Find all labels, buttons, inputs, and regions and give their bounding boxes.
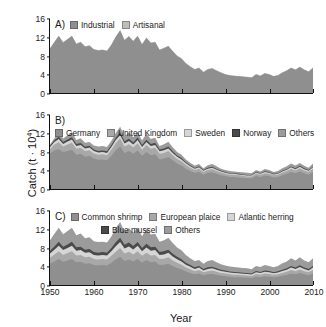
legend-label-artisanal: Artisanal <box>133 20 165 30</box>
panel-label-a: A) <box>55 19 65 32</box>
x-tick-mark <box>226 185 227 189</box>
legend-label-norway: Norway <box>243 128 271 138</box>
legend-swatch-others-c <box>164 226 172 234</box>
y-tick-label: 4 <box>40 167 45 176</box>
y-tick-label: 16 <box>36 111 45 120</box>
y-tick-label: 12 <box>36 34 45 43</box>
legend-item-artisanal[interactable]: Artisanal <box>122 20 165 30</box>
legend-item-atlantic-herring[interactable]: Atlantic herring <box>227 212 293 222</box>
y-tick-label: 4 <box>40 71 45 80</box>
legend-item-common-shrimp[interactable]: Common shrimp <box>71 212 143 222</box>
x-tick-mark <box>182 281 183 285</box>
legend-label-others-c: Others <box>175 225 200 235</box>
legend-swatch-others-b <box>278 129 286 137</box>
legend-item-others-b[interactable]: Others <box>278 128 314 138</box>
legend-swatch-industrial <box>70 21 78 29</box>
x-tick-mark <box>226 281 227 285</box>
legend-item-germany[interactable]: Germany <box>55 128 100 138</box>
y-tick-mark <box>47 248 51 249</box>
y-tick-label: 12 <box>36 226 45 235</box>
x-tick-label: 2000 <box>261 288 280 297</box>
legend-swatch-artisanal <box>122 21 130 29</box>
x-tick-mark <box>270 89 271 93</box>
x-tick-mark <box>94 185 95 189</box>
legend-swatch-norway <box>232 129 240 137</box>
legend-label-blue-mussel: Blue mussel <box>112 225 157 235</box>
y-tick-label: 8 <box>40 52 45 61</box>
legend-label-others-b: Others <box>289 128 314 138</box>
x-tick-label: 2010 <box>305 288 324 297</box>
y-tick-mark <box>47 114 51 115</box>
legend-label-atlantic-herring: Atlantic herring <box>238 212 293 222</box>
panel-label-c: C) <box>55 211 66 224</box>
y-tick-mark <box>47 37 51 38</box>
x-tick-label: 1950 <box>41 288 60 297</box>
legend-label-common-shrimp: Common shrimp <box>82 212 143 222</box>
y-tick-mark <box>47 267 51 268</box>
x-tick-label: 1990 <box>217 288 236 297</box>
y-axis-title-text: Catch (t · 10 <box>26 137 38 198</box>
x-tick-label: 1960 <box>85 288 104 297</box>
x-tick-mark <box>226 89 227 93</box>
panel-c: 04812161950196019701980199020002010 C) C… <box>0 192 326 307</box>
legend-swatch-sweden <box>184 129 192 137</box>
legend-label-industrial: Industrial <box>81 20 115 30</box>
x-tick-mark <box>270 185 271 189</box>
legend-item-norway[interactable]: Norway <box>232 128 271 138</box>
legend-swatch-united-kingdom <box>107 129 115 137</box>
x-tick-mark <box>138 281 139 285</box>
y-tick-mark <box>47 18 51 19</box>
legend-item-industrial[interactable]: Industrial <box>70 20 115 30</box>
legend-b: B) Germany United Kingdom Sweden Norway <box>55 115 326 138</box>
y-tick-label: 16 <box>36 15 45 24</box>
y-tick-label: 8 <box>40 148 45 157</box>
y-axis-title-exponent: 4 <box>25 132 34 136</box>
x-tick-mark <box>50 281 51 285</box>
x-tick-label: 1970 <box>129 288 148 297</box>
legend-label-european-plaice: European plaice <box>160 212 220 222</box>
y-tick-mark <box>47 171 51 172</box>
legend-item-others-c[interactable]: Others <box>164 225 200 235</box>
x-tick-mark <box>313 185 314 189</box>
y-tick-mark <box>47 210 51 211</box>
y-tick-mark <box>47 229 51 230</box>
figure-catch-time-series: 0481216 A) Industrial Artisanal 0481216 <box>0 0 326 327</box>
legend-swatch-blue-mussel <box>101 226 109 234</box>
legend-swatch-atlantic-herring <box>227 213 235 221</box>
legend-label-sweden: Sweden <box>195 128 225 138</box>
x-tick-mark <box>182 185 183 189</box>
legend-label-united-kingdom: United Kingdom <box>118 128 177 138</box>
x-axis-title: Year <box>49 312 313 324</box>
x-tick-mark <box>182 89 183 93</box>
legend-item-blue-mussel[interactable]: Blue mussel <box>101 225 157 235</box>
y-tick-label: 8 <box>40 244 45 253</box>
legend-c: C) Common shrimp European plaice Atlanti… <box>55 211 301 235</box>
y-axis-title-suffix: ) <box>26 129 38 133</box>
x-tick-mark <box>94 89 95 93</box>
y-tick-mark <box>47 75 51 76</box>
legend-label-germany: Germany <box>66 128 100 138</box>
y-tick-mark <box>47 56 51 57</box>
x-tick-mark <box>94 281 95 285</box>
legend-a: A) Industrial Artisanal <box>55 19 172 32</box>
x-tick-mark <box>138 89 139 93</box>
y-tick-mark <box>47 133 51 134</box>
panel-a: 0481216 A) Industrial Artisanal <box>0 0 326 108</box>
x-tick-mark <box>138 185 139 189</box>
legend-item-sweden[interactable]: Sweden <box>184 128 225 138</box>
x-tick-mark <box>50 185 51 189</box>
legend-swatch-common-shrimp <box>71 213 79 221</box>
y-tick-label: 4 <box>40 263 45 272</box>
x-tick-mark <box>313 281 314 285</box>
panel-label-b: B) <box>55 115 65 128</box>
legend-item-united-kingdom[interactable]: United Kingdom <box>107 128 177 138</box>
y-tick-mark <box>47 93 51 94</box>
y-tick-mark <box>47 189 51 190</box>
x-tick-label: 1980 <box>173 288 192 297</box>
legend-item-european-plaice[interactable]: European plaice <box>149 212 220 222</box>
x-tick-mark <box>50 89 51 93</box>
panel-b: 0481216 B) Germany United Kingdom Sweden <box>0 96 326 204</box>
x-tick-mark <box>313 89 314 93</box>
y-tick-mark <box>47 152 51 153</box>
legend-swatch-germany <box>55 129 63 137</box>
